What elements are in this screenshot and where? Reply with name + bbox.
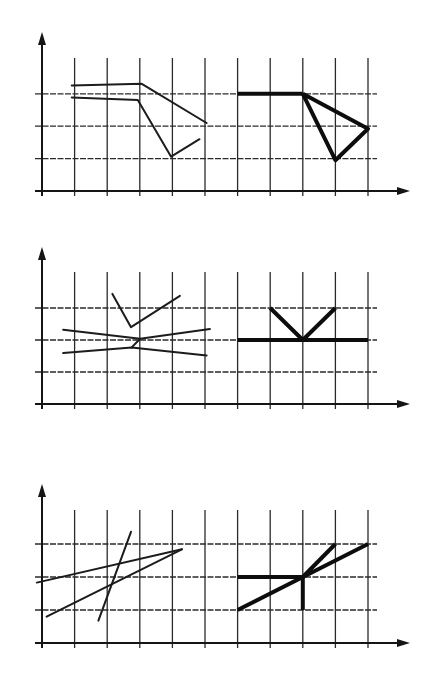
right-shape-segment	[303, 544, 336, 577]
x-axis-arrow-icon	[397, 400, 410, 408]
left-shape	[63, 294, 210, 356]
panel-1	[35, 32, 410, 196]
left-shape-segment	[63, 329, 210, 339]
left-shape-segment	[63, 347, 206, 355]
left-shape-segment	[47, 549, 182, 616]
y-axis-arrow-icon	[38, 247, 46, 260]
grid-figure	[0, 0, 431, 683]
left-shape-segment	[112, 294, 179, 327]
left-shape	[37, 532, 182, 621]
left-shape	[72, 84, 207, 157]
y-axis-arrow-icon	[38, 484, 46, 497]
x-axis-arrow-icon	[397, 187, 410, 195]
y-axis-arrow-icon	[38, 32, 46, 45]
panel-3	[35, 484, 410, 648]
panel-2	[35, 247, 410, 409]
x-axis-arrow-icon	[397, 639, 410, 647]
